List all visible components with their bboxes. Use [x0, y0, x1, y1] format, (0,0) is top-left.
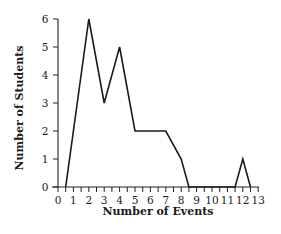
- y-axis-ticks: 0123456: [42, 13, 58, 193]
- frequency-polygon-chart: 0123456 012345678910111213 Number of Eve…: [0, 0, 281, 234]
- y-tick-label: 0: [42, 181, 49, 193]
- data-series-line: [66, 19, 251, 187]
- x-tick-label: 2: [85, 194, 92, 206]
- y-tick-label: 6: [42, 13, 49, 25]
- x-tick-label: 13: [252, 194, 265, 206]
- y-tick-label: 3: [42, 97, 49, 109]
- x-tick-label: 1: [70, 194, 77, 206]
- y-axis-title: Number of Students: [13, 46, 26, 171]
- y-tick-label: 4: [42, 69, 49, 81]
- x-tick-label: 12: [236, 194, 249, 206]
- y-tick-label: 1: [42, 153, 49, 165]
- x-axis-ticks: 012345678910111213: [55, 187, 265, 206]
- x-tick-label: 11: [221, 194, 234, 206]
- y-tick-label: 5: [42, 41, 49, 53]
- y-tick-label: 2: [42, 125, 49, 137]
- x-axis-title: Number of Events: [103, 205, 214, 218]
- x-tick-label: 0: [55, 194, 62, 206]
